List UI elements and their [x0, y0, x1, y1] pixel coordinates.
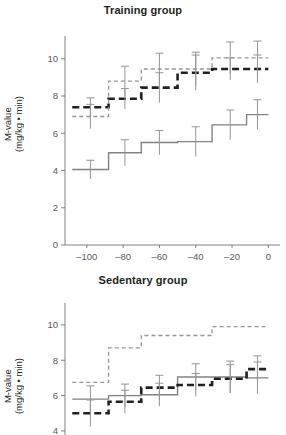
x-axis-tick-label: –40: [188, 251, 204, 262]
series-line-solid-gray: [72, 115, 268, 170]
series-line-thin-gray-dashed: [72, 327, 268, 383]
y-axis-tick-label: 4: [53, 165, 58, 176]
y-axis-tick-label: 4: [53, 425, 58, 435]
y-axis-tick-label: 2: [53, 202, 58, 213]
series-line-thin-gray-dashed: [72, 58, 268, 117]
y-axis-label-line2-b: (mg/kg • min): [13, 358, 24, 414]
chart-svg-training: 0246810–100–80–60–40–200: [0, 0, 286, 262]
y-axis-tick-label: 10: [47, 53, 58, 64]
y-axis-label-line1-b: M-value: [2, 369, 13, 403]
x-axis-tick-label: –20: [224, 251, 240, 262]
x-axis-tick-label: –60: [151, 251, 167, 262]
y-axis-tick-label: 8: [53, 90, 58, 101]
y-axis-tick-label: 8: [53, 355, 58, 366]
series-line-thick-black-dashed: [72, 369, 268, 413]
chart-panel-training: Training group M-value (mg/kg • min) 024…: [0, 0, 286, 262]
y-axis-tick-label: 6: [53, 128, 58, 139]
x-axis-tick-label: –80: [115, 251, 131, 262]
error-bar: [155, 53, 163, 85]
chart-svg-sedentary: 46810: [0, 262, 286, 435]
series-line-thick-black-dashed: [72, 69, 268, 107]
x-axis-tick-label: –100: [76, 251, 97, 262]
y-axis-tick-label: 0: [53, 239, 58, 250]
chart-panel-sedentary: Sedentary group 46810: [0, 262, 286, 435]
x-axis-tick-label: 0: [266, 251, 271, 262]
y-axis-label-sedentary: M-value (mg/kg • min): [2, 358, 24, 414]
y-axis-tick-label: 10: [47, 319, 58, 330]
y-axis-tick-label: 6: [53, 390, 58, 401]
